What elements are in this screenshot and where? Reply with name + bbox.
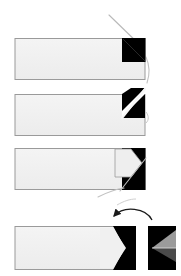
- diagram-root: [0, 0, 181, 276]
- step-2-group: [15, 88, 148, 136]
- fold-sequence-diagram: [0, 0, 181, 276]
- step-3-group: [15, 148, 146, 197]
